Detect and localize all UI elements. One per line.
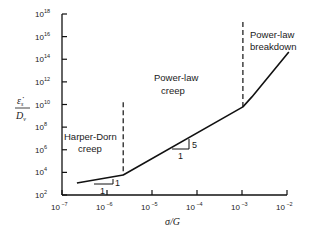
power-law-creep-label-line2: creep	[161, 85, 185, 96]
y-axis-label: ε̇s Dv	[15, 95, 30, 122]
x-tick-label: 10−6	[96, 201, 113, 212]
slope-triangle-5: 5 1	[172, 139, 197, 161]
y-tick-label: 1014	[35, 53, 50, 64]
power-law-breakdown-label-line2: breakdown	[250, 41, 296, 52]
slope1-rise-label: 1	[115, 178, 120, 188]
power-law-breakdown-label-line1: Power-law	[250, 29, 294, 40]
y-tick-label: 108	[35, 121, 47, 132]
y-tick-label: 106	[35, 144, 47, 155]
y-tick-label: 102	[35, 189, 47, 200]
x-tick-label: 10−3	[231, 201, 248, 212]
x-tick-label: 10−4	[186, 201, 203, 212]
y-label-denominator: Dv	[15, 110, 26, 122]
harper-dorn-label-line1: Harper-Dorn	[64, 131, 117, 142]
x-tick-label: 10−7	[51, 201, 68, 212]
slope1-run-label: 1	[100, 186, 105, 196]
power-law-creep-label-line1: Power-law	[154, 72, 198, 83]
y-label-numerator: ε̇s	[17, 95, 24, 107]
harper-dorn-label-line2: creep	[78, 143, 102, 154]
x-tick-label: 10−5	[141, 201, 158, 212]
creep-mechanism-chart: 10210410610810101012101410161018 10−710−…	[0, 0, 314, 235]
y-tick-label: 1018	[35, 8, 50, 19]
slope5-run-label: 1	[178, 151, 183, 161]
y-tick-label: 1010	[35, 99, 50, 110]
slope5-rise-label: 5	[192, 140, 197, 150]
x-tick-label: 10−2	[276, 201, 293, 212]
x-axis-ticks: 10−710−610−510−410−310−2	[51, 190, 293, 212]
y-tick-label: 1012	[35, 76, 50, 87]
regime-boundaries	[123, 22, 243, 175]
y-tick-label: 104	[35, 166, 47, 177]
x-axis-label: σ/G	[165, 216, 180, 227]
y-tick-label: 1016	[35, 31, 50, 42]
